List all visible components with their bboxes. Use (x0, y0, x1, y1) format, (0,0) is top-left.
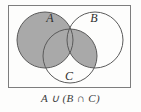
set-b-label: B (90, 11, 98, 25)
figure-caption: A ∪ (B ∩ C) (0, 92, 141, 105)
set-c-label: C (65, 69, 74, 83)
set-a-label: A (45, 11, 54, 25)
venn-diagram-figure: A B C A ∪ (B ∩ C) (0, 0, 141, 112)
